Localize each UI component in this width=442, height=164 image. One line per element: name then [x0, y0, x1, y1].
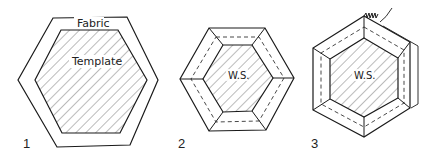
figure-number: 3	[311, 136, 318, 151]
figure-2: W.S. 2	[178, 28, 294, 151]
wrong-side-label: W.S.	[228, 70, 249, 81]
needle-thread	[380, 8, 392, 22]
figure-1: Fabric Template 1	[18, 17, 158, 151]
diagram-canvas: Fabric Template 1 W.S. 2	[0, 0, 442, 164]
figure-3: W.S. 3	[311, 8, 418, 151]
figure-number: 2	[178, 136, 185, 151]
template-label: Template	[71, 55, 122, 68]
fabric-label: Fabric	[77, 17, 110, 30]
wrong-side-label: W.S.	[354, 70, 375, 81]
figure-number: 1	[23, 136, 30, 151]
